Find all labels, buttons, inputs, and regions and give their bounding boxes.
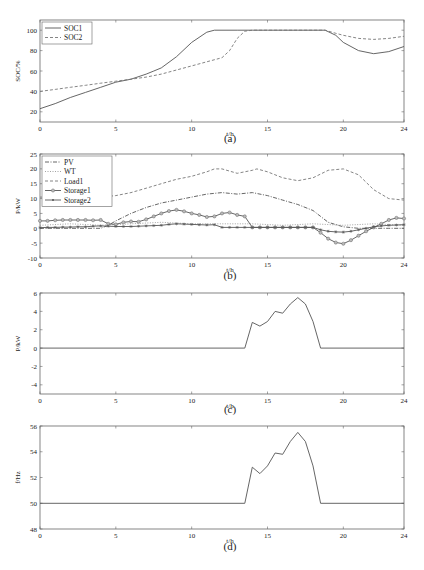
data-point-storage2 (175, 222, 178, 225)
data-point-storage2 (190, 223, 193, 226)
y-tick-label: 56 (30, 423, 38, 431)
x-tick-label: 0 (38, 261, 42, 269)
x-tick-label: 20 (340, 532, 348, 540)
data-point-storage2 (281, 226, 284, 229)
data-point-storage2 (213, 223, 216, 226)
data-point-storage2 (84, 225, 87, 228)
x-tick-label: 0 (38, 397, 42, 405)
data-point-storage2 (304, 226, 307, 229)
data-point-storage2 (349, 230, 352, 233)
y-tick-label: 4 (34, 308, 38, 316)
data-point-storage1 (349, 239, 352, 242)
x-tick-label: 5 (114, 125, 118, 133)
legend: SOC1SOC2 (42, 22, 92, 44)
x-tick-label: 15 (264, 397, 272, 405)
x-tick-label: 20 (340, 397, 348, 405)
y-tick-label: 15 (30, 180, 38, 188)
data-point-storage2 (296, 226, 299, 229)
y-tick-label: 0 (34, 345, 38, 353)
x-tick-label: 10 (188, 261, 196, 269)
data-point-storage1 (236, 213, 239, 216)
data-point-storage2 (342, 231, 345, 234)
data-point-storage2 (357, 228, 360, 231)
plot-area-frame (40, 293, 404, 394)
y-axis-label: P/kW (14, 335, 22, 351)
data-point-storage2 (107, 225, 110, 228)
y-tick-label: 20 (30, 108, 38, 116)
legend-label: PV (64, 158, 74, 167)
series-line-p (40, 298, 404, 349)
x-tick-label: 0 (38, 532, 42, 540)
data-point-storage2 (319, 228, 322, 231)
data-point-storage1 (46, 219, 49, 222)
x-tick-label: 5 (114, 532, 118, 540)
data-point-storage2 (76, 225, 79, 228)
data-point-storage1 (205, 215, 208, 218)
data-point-storage2 (54, 226, 57, 229)
data-point-storage2 (69, 226, 72, 229)
data-point-storage2 (198, 223, 201, 226)
legend-marker (51, 189, 54, 192)
y-tick-label: 40 (30, 88, 38, 96)
data-point-storage2 (160, 224, 163, 227)
data-point-storage2 (251, 226, 254, 229)
data-point-storage1 (69, 218, 72, 221)
data-point-storage1 (387, 218, 390, 221)
x-tick-label: 20 (340, 261, 348, 269)
y-tick-label: 20 (30, 165, 38, 173)
x-tick-label: 15 (264, 261, 272, 269)
data-point-storage1 (76, 218, 79, 221)
y-tick-label: 0 (34, 225, 38, 233)
y-axis-label: f/Hz (14, 471, 22, 483)
data-point-storage1 (364, 230, 367, 233)
legend-marker (52, 199, 54, 201)
data-point-storage1 (167, 209, 170, 212)
legend-label: Storage1 (64, 186, 91, 195)
y-tick-label: 25 (30, 151, 38, 159)
y-tick-label: 54 (30, 448, 38, 456)
x-tick-label: 24 (401, 532, 409, 540)
y-axis-label: SOC/% (14, 60, 22, 82)
x-tick-label: 24 (401, 397, 409, 405)
data-point-storage1 (228, 211, 231, 214)
legend: PVWTLoad1Storage1Storage2 (42, 156, 112, 207)
data-point-storage2 (130, 225, 133, 228)
y-tick-label: -4 (31, 381, 37, 389)
x-tick-label: 24 (401, 261, 409, 269)
subplot-b: 0510152024-10-50510152025t/hP/kW(b)PVWTL… (14, 151, 408, 283)
y-tick-label: 80 (30, 47, 38, 55)
data-point-storage2 (274, 226, 277, 229)
legend-label: Load1 (64, 177, 83, 186)
subplot-caption: (d) (224, 540, 237, 553)
data-point-storage1 (137, 220, 140, 223)
y-tick-label: 48 (30, 526, 38, 534)
figure: 051015202420406080100t/hSOC/%(a)SOC1SOC2… (0, 0, 424, 570)
x-tick-label: 15 (264, 125, 272, 133)
plot-area-frame (40, 20, 404, 122)
series-line-soc1 (40, 30, 404, 109)
legend-label: SOC1 (64, 24, 83, 33)
data-point-storage2 (114, 225, 117, 228)
data-point-storage1 (319, 231, 322, 234)
y-tick-label: 6 (34, 290, 38, 298)
data-point-storage2 (137, 225, 140, 228)
data-point-storage2 (236, 226, 239, 229)
data-point-storage2 (205, 224, 208, 227)
y-tick-label: -2 (31, 363, 37, 371)
data-point-storage1 (182, 210, 185, 213)
x-tick-label: 10 (188, 125, 196, 133)
data-point-storage1 (152, 215, 155, 218)
data-point-storage2 (312, 226, 315, 229)
data-point-storage1 (122, 221, 125, 224)
series-line-wt (40, 222, 404, 225)
data-point-storage2 (99, 224, 102, 227)
data-point-storage2 (145, 224, 148, 227)
data-point-storage1 (190, 212, 193, 215)
x-tick-label: 5 (114, 261, 118, 269)
subplot-c: 0510152024-4-20246t/hP/kW(c) (14, 290, 408, 417)
y-tick-label: 100 (27, 27, 38, 35)
data-point-storage2 (39, 226, 42, 229)
y-tick-label: 52 (30, 474, 38, 482)
data-point-storage1 (99, 218, 102, 221)
data-point-storage1 (357, 234, 360, 237)
